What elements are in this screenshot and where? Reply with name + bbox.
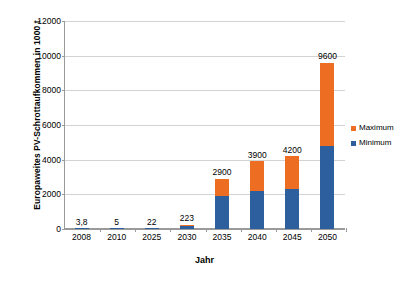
bar-group[interactable]: 9600 (320, 63, 334, 229)
gridline (65, 125, 345, 126)
legend-label: Maximum (359, 124, 394, 132)
chart-container: Europaweites PV-Schrottaufkommen in 1000… (0, 0, 418, 281)
bar-segment-minimum[interactable] (250, 191, 264, 229)
bar-group[interactable]: 3,8 (75, 228, 89, 229)
x-axis-tick-mark (241, 228, 242, 232)
bar-group[interactable]: 4200 (285, 156, 299, 229)
bar-value-label: 5 (114, 218, 119, 227)
bar-group[interactable]: 223 (180, 225, 194, 229)
bar-segment-minimum[interactable] (145, 228, 159, 229)
plot-area (64, 21, 345, 229)
x-axis-tick-mark (346, 228, 347, 232)
bar-value-label: 223 (180, 214, 194, 223)
legend-swatch-icon (351, 126, 356, 131)
gridline (65, 90, 345, 91)
bar-segment-minimum[interactable] (320, 146, 334, 229)
y-axis-tick-mark (62, 56, 65, 57)
y-axis-tick-mark (62, 125, 65, 126)
bar-segment-minimum[interactable] (180, 226, 194, 229)
x-axis-tick-mark (100, 228, 101, 232)
y-axis-tick-label: 4000 (13, 155, 61, 164)
bar-segment-minimum[interactable] (75, 228, 89, 229)
bar-group[interactable]: 3900 (250, 161, 264, 229)
y-axis-tick-mark (62, 194, 65, 195)
gridline (65, 194, 345, 195)
bar-segment-maximum[interactable] (250, 161, 264, 190)
y-axis-tick-mark (62, 229, 65, 230)
chart-legend: MaximumMinimum (351, 124, 394, 154)
x-axis-title: Jahr (64, 255, 345, 265)
bar-group[interactable]: 2900 (215, 179, 229, 229)
x-axis-tick-mark (276, 228, 277, 232)
bar-segment-maximum[interactable] (285, 156, 299, 189)
gridline (65, 21, 345, 22)
legend-item[interactable]: Minimum (351, 139, 394, 147)
x-axis-tick-label: 2050 (303, 233, 351, 242)
bar-value-label: 9600 (318, 52, 337, 61)
bar-group[interactable]: 22 (145, 228, 159, 229)
bar-segment-maximum[interactable] (215, 179, 229, 196)
y-axis-tick-label: 6000 (13, 121, 61, 130)
bar-value-label: 3,8 (76, 218, 88, 227)
x-axis-tick-mark (170, 228, 171, 232)
x-axis-tick-mark (206, 228, 207, 232)
bar-value-label: 3900 (248, 151, 267, 160)
y-axis-tick-mark (62, 90, 65, 91)
y-axis-tick-label: 2000 (13, 190, 61, 199)
gridline (65, 56, 345, 57)
bar-segment-minimum[interactable] (110, 228, 124, 229)
x-axis-tick-mark (311, 228, 312, 232)
y-axis-tick-mark (62, 21, 65, 22)
y-axis-tick-label: 0 (13, 225, 61, 234)
y-axis-tick-mark (62, 160, 65, 161)
legend-label: Minimum (359, 139, 391, 147)
y-axis-tick-label: 10000 (13, 51, 61, 60)
bar-value-label: 4200 (283, 146, 302, 155)
bar-segment-maximum[interactable] (320, 63, 334, 146)
bar-value-label: 2900 (213, 168, 232, 177)
bar-segment-minimum[interactable] (215, 196, 229, 229)
x-axis-tick-mark (135, 228, 136, 232)
bar-segment-minimum[interactable] (285, 189, 299, 229)
legend-swatch-icon (351, 141, 356, 146)
y-axis-tick-label: 12000 (13, 17, 61, 26)
legend-item[interactable]: Maximum (351, 124, 394, 132)
y-axis-tick-label: 8000 (13, 86, 61, 95)
bar-group[interactable]: 5 (110, 228, 124, 229)
gridline (65, 160, 345, 161)
bar-value-label: 22 (147, 218, 156, 227)
